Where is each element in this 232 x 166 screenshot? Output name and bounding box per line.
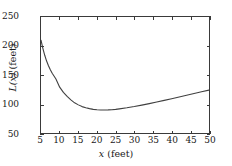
- x-axis-tick-top: [116, 16, 117, 20]
- y-axis-tick-left: [40, 105, 44, 106]
- x-axis-title: x (feet): [0, 148, 232, 159]
- figure-chart-ladder-length: 501001502002505101520253035404550 x (fee…: [0, 0, 232, 166]
- plot-area: [40, 16, 210, 134]
- x-axis-tick-bottom: [210, 131, 211, 135]
- data-series-line: [41, 40, 209, 110]
- x-axis-tick-bottom: [59, 131, 60, 135]
- x-axis-tick-top: [40, 16, 41, 20]
- x-axis-tick-bottom: [116, 131, 117, 135]
- y-tick-label: 50: [8, 130, 19, 139]
- y-axis-title-units: (feet): [7, 43, 18, 72]
- x-axis-tick-bottom: [172, 131, 173, 135]
- x-tick-label: 50: [198, 136, 222, 145]
- x-axis-tick-bottom: [97, 131, 98, 135]
- y-axis-title-variable: L(x): [7, 72, 18, 91]
- x-axis-tick-bottom: [153, 131, 154, 135]
- y-axis-tick-left: [40, 46, 44, 47]
- x-axis-tick-top: [97, 16, 98, 20]
- y-axis-tick-right: [207, 46, 211, 47]
- x-axis-tick-top: [78, 16, 79, 20]
- y-axis-tick-right: [207, 75, 211, 76]
- x-axis-tick-top: [172, 16, 173, 20]
- y-axis-tick-left: [40, 75, 44, 76]
- x-axis-tick-bottom: [191, 131, 192, 135]
- x-axis-title-units: (feet): [104, 148, 133, 159]
- x-axis-tick-bottom: [134, 131, 135, 135]
- x-axis-tick-top: [153, 16, 154, 20]
- y-axis-title: L(x) (feet): [7, 8, 18, 128]
- x-axis-tick-top: [59, 16, 60, 20]
- curve-svg: [41, 17, 209, 133]
- x-axis-tick-bottom: [78, 131, 79, 135]
- x-axis-tick-bottom: [40, 131, 41, 135]
- x-axis-tick-top: [191, 16, 192, 20]
- x-axis-tick-top: [210, 16, 211, 20]
- x-axis-tick-top: [134, 16, 135, 20]
- y-axis-tick-right: [207, 105, 211, 106]
